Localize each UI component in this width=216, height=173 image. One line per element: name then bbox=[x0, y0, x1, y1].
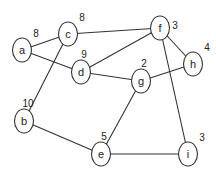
node-weight-d: 9 bbox=[81, 49, 87, 60]
node-label-h: h bbox=[190, 58, 196, 70]
node-f: f3 bbox=[151, 16, 179, 40]
node-label-g: g bbox=[138, 75, 144, 87]
node-label-d: d bbox=[78, 66, 84, 78]
node-weight-g: 2 bbox=[141, 58, 147, 69]
node-label-e: e bbox=[98, 148, 104, 160]
node-weight-a: 8 bbox=[33, 28, 39, 39]
nodes-layer: a8b10c8d9e5f3g2h4i3 bbox=[13, 12, 211, 167]
node-b: b10 bbox=[15, 98, 34, 134]
node-weight-f: 3 bbox=[172, 20, 178, 31]
node-weight-e: 5 bbox=[101, 131, 107, 142]
node-a: a8 bbox=[13, 28, 40, 63]
edge-c-f bbox=[68, 28, 160, 34]
node-i: i3 bbox=[179, 132, 206, 167]
edge-f-i bbox=[160, 28, 188, 154]
node-label-c: c bbox=[65, 28, 71, 40]
node-label-b: b bbox=[21, 115, 27, 127]
node-d: d9 bbox=[72, 49, 91, 85]
edge-g-e bbox=[101, 81, 141, 154]
edges-layer bbox=[22, 28, 193, 154]
node-g: g2 bbox=[132, 58, 151, 94]
edge-d-f bbox=[81, 28, 160, 72]
node-weight-h: 4 bbox=[204, 42, 210, 53]
node-c: c8 bbox=[59, 12, 86, 47]
node-weight-i: 3 bbox=[199, 132, 205, 143]
node-label-i: i bbox=[187, 148, 189, 160]
node-weight-c: 8 bbox=[79, 12, 85, 23]
node-h: h4 bbox=[184, 42, 211, 77]
edge-b-e bbox=[24, 121, 101, 154]
graph-diagram: a8b10c8d9e5f3g2h4i3 bbox=[0, 0, 216, 173]
node-e: e5 bbox=[92, 131, 111, 167]
node-weight-b: 10 bbox=[22, 98, 34, 109]
node-label-a: a bbox=[19, 44, 26, 56]
